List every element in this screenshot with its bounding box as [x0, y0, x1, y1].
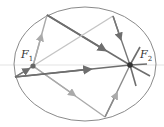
focus-f1-dot [30, 63, 35, 68]
focus-f2-label: F2 [140, 49, 152, 63]
ray-path-2 [33, 16, 130, 66]
focus-f2-dot [127, 62, 133, 68]
focus-f1-label: F1 [21, 49, 33, 63]
diagram-canvas [0, 0, 164, 127]
ellipse-reflection-diagram: F1 F2 [0, 0, 164, 127]
